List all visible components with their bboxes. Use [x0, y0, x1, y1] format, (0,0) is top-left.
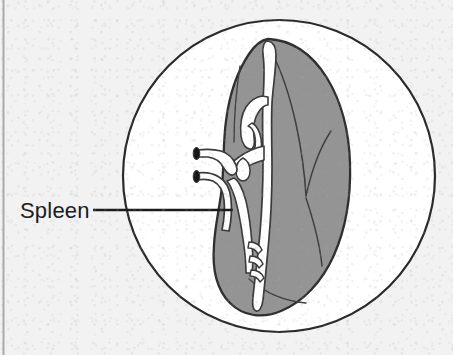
vessel-branch-nodule	[236, 158, 250, 181]
figure-page: Spleen	[0, 0, 453, 355]
spleen-anatomy-figure: Spleen	[0, 0, 453, 355]
splenic-artery-lumen	[193, 148, 199, 160]
label-spleen: Spleen	[20, 198, 90, 223]
splenic-vein-lumen	[193, 171, 199, 183]
